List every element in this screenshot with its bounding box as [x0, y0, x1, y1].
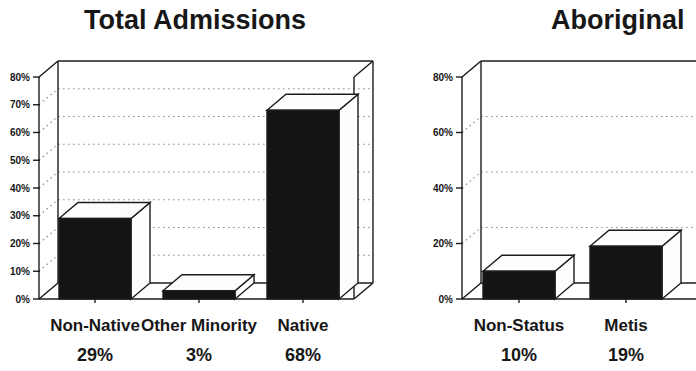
gridline-depth-connector [39, 172, 58, 188]
gridline-depth-connector [39, 200, 58, 216]
frame-floor-right-diagonal [354, 283, 373, 299]
frame-top-left-diagonal [462, 61, 481, 77]
y-tick-label: 60% [433, 127, 453, 138]
gridline-depth-connector [39, 144, 58, 160]
category-label-metis: Metis [604, 316, 647, 335]
chart-title-total-admissions: Total Admissions [0, 4, 390, 36]
bar-native [267, 110, 339, 299]
frame-top-left-diagonal [39, 61, 58, 77]
gridline-depth-connector [39, 117, 58, 133]
category-label-other-minority: Other Minority [141, 316, 258, 335]
y-tick-label: 80% [433, 72, 453, 83]
y-tick-label: 40% [433, 183, 453, 194]
frame-floor-left-diagonal [462, 283, 481, 299]
y-tick-label: 50% [10, 155, 30, 166]
frame-floor-left-diagonal [39, 283, 58, 299]
bar-non-status [483, 271, 555, 299]
y-tick-label: 20% [10, 238, 30, 249]
y-tick-label: 30% [10, 210, 30, 221]
aboriginal-plot: 0%20%40%60%80%Non-Status10%Metis19% [420, 50, 696, 371]
y-tick-label: 40% [10, 183, 30, 194]
y-tick-label: 70% [10, 99, 30, 110]
category-label-native: Native [277, 316, 328, 335]
dual-bar-chart-figure: Total Admissions Aboriginal 0%10%20%30%4… [0, 0, 696, 371]
value-label-non-native: 29% [77, 345, 113, 365]
chart-title-aboriginal: Aboriginal [551, 4, 685, 36]
bar-other-minority [163, 291, 235, 299]
value-label-metis: 19% [608, 345, 644, 365]
value-label-other-minority: 3% [186, 345, 212, 365]
y-tick-label: 0% [439, 294, 454, 305]
frame-top-right-diagonal [354, 61, 373, 77]
gridline-depth-connector [462, 117, 481, 133]
y-tick-label: 20% [433, 238, 453, 249]
gridline-depth-connector [39, 255, 58, 271]
gridline-depth-connector [462, 172, 481, 188]
gridline-depth-connector [39, 89, 58, 105]
category-label-non-native: Non-Native [50, 316, 140, 335]
value-label-native: 68% [285, 345, 321, 365]
gridline-depth-connector [39, 228, 58, 244]
bar-non-native [59, 219, 131, 299]
bar-metis [590, 246, 662, 299]
y-tick-label: 10% [10, 266, 30, 277]
y-tick-label: 0% [16, 294, 31, 305]
bar-side-native [339, 94, 358, 299]
value-label-non-status: 10% [501, 345, 537, 365]
y-tick-label: 80% [10, 72, 30, 83]
y-tick-label: 60% [10, 127, 30, 138]
total-admissions-plot: 0%10%20%30%40%50%60%70%80%Non-Native29%O… [0, 50, 400, 371]
category-label-non-status: Non-Status [474, 316, 565, 335]
gridline-depth-connector [462, 228, 481, 244]
